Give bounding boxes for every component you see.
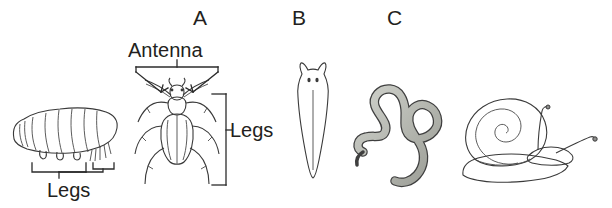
beetle-drawing xyxy=(135,78,219,184)
caterpillar-legs-bracket xyxy=(32,163,114,178)
caterpillar-drawing xyxy=(13,108,117,161)
beetle-legs-bracket xyxy=(212,94,232,185)
flatworm-drawing xyxy=(298,63,329,178)
roundworm-drawing xyxy=(357,89,438,182)
snail-drawing xyxy=(463,99,597,182)
specimen-artwork xyxy=(0,0,612,208)
invertebrate-diagram: A B C Antenna Legs Legs xyxy=(0,0,612,208)
beetle-antenna-bracket xyxy=(136,60,218,92)
